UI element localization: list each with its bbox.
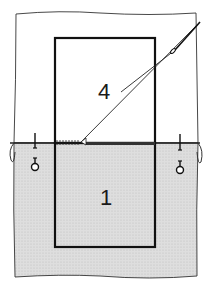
upper-fabric bbox=[14, 12, 198, 143]
lower-fabric bbox=[14, 143, 198, 278]
label-piece-4: 4 bbox=[98, 79, 110, 104]
thread-along-fold bbox=[82, 142, 155, 145]
sewing-diagram: 4 1 bbox=[0, 0, 208, 288]
label-piece-1: 1 bbox=[100, 185, 112, 210]
